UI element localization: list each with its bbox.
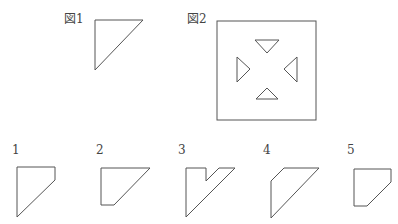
option-1-label[interactable]: 1 (12, 143, 20, 157)
option-3-shape[interactable] (186, 168, 235, 217)
figure-canvas (0, 0, 398, 224)
figure-2-triangle-right (284, 57, 297, 82)
figure-1-triangle (95, 20, 143, 70)
option-4-shape[interactable] (271, 168, 319, 218)
option-4-label[interactable]: 4 (263, 143, 271, 157)
option-3-label[interactable]: 3 (178, 143, 186, 157)
figure-2-triangle-left (237, 57, 250, 82)
option-5-shape[interactable] (354, 169, 391, 206)
option-2-label[interactable]: 2 (96, 143, 104, 157)
option-1-shape[interactable] (17, 167, 55, 217)
option-5-label[interactable]: 5 (347, 143, 355, 157)
figure-2-triangle-bottom (256, 88, 278, 99)
figure-1-label: 図1 (64, 12, 84, 26)
figure-2-label: 図2 (187, 12, 207, 26)
option-2-shape[interactable] (101, 168, 150, 205)
figure-2-square (217, 21, 316, 120)
figure-2-triangle-top (255, 40, 279, 53)
